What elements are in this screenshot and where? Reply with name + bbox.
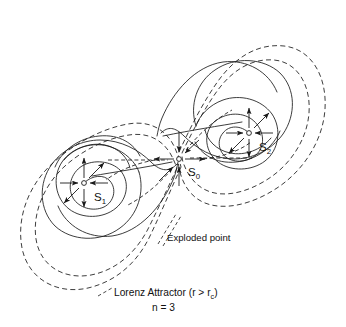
fixed-point-S1-label: S1	[94, 191, 106, 206]
fixed-point-S0-group: S0	[154, 132, 205, 186]
caption-line-2: n = 3	[152, 302, 175, 313]
fixed-point-S0-marker	[177, 157, 182, 162]
fixed-point-S2-group: S2	[226, 108, 273, 157]
S1-arrow-out-lower-left	[64, 188, 79, 203]
left-lobe-trajectories	[42, 136, 178, 239]
caption-line-1: Lorenz Attractor (r > rc)	[114, 287, 218, 301]
lorenz-attractor-figure: S0 S1 S2	[0, 0, 346, 327]
right-lobe-trajectories	[157, 61, 292, 169]
fixed-point-S0-label: S0	[188, 166, 201, 181]
S2-arrow-out-upper-right	[254, 113, 269, 128]
fixed-point-S1-marker	[82, 181, 87, 186]
fixed-point-S1-group: S1	[60, 158, 108, 207]
exploded-point-label: Exploded point	[167, 232, 231, 243]
phase-portrait-svg: S0 S1 S2	[0, 0, 346, 327]
S1-arrow-out-upper-right	[89, 163, 104, 178]
exploded-point-annotation: Exploded point	[158, 214, 231, 246]
figure-caption: Lorenz Attractor (r > rc) n = 3	[98, 287, 218, 313]
fixed-point-S2-marker	[247, 131, 252, 136]
